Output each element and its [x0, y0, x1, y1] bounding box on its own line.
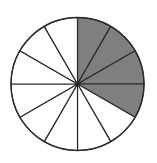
center-point: [76, 82, 79, 85]
fraction-circle-diagram: [0, 0, 157, 163]
